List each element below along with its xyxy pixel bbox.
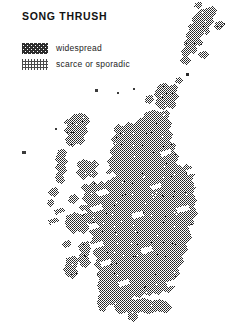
island-north-rona (95, 89, 98, 92)
region-mainland-scotland (80, 110, 202, 308)
region-southern-scotland (114, 297, 172, 322)
distribution-map-figure: SONG THRUSH widespread scarce or sporadi… (0, 0, 234, 330)
map-landmasses (22, 2, 225, 322)
region-shetland (180, 2, 225, 65)
island-flannan (55, 128, 57, 130)
island-st-kilda (22, 151, 26, 154)
region-orkney (145, 77, 183, 110)
island-stroma (133, 88, 135, 90)
map-svg (0, 0, 234, 330)
island-sule-skerry (117, 92, 119, 94)
scotland-distribution-map (0, 0, 234, 330)
island-fair-isle (186, 73, 189, 76)
